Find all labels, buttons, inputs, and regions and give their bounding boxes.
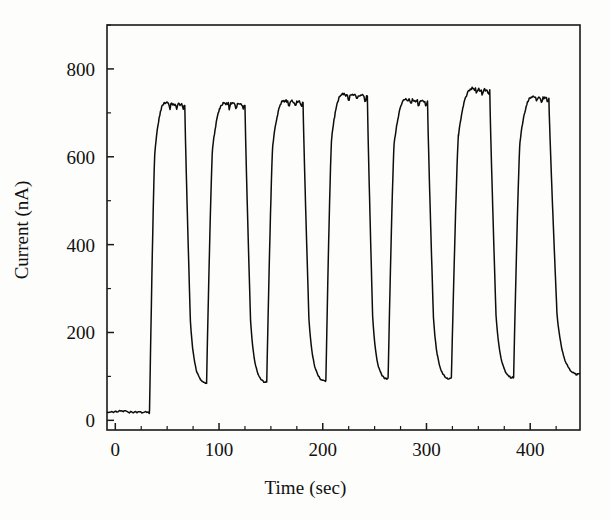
chart-plot-area: 0100200300400 0200400600800 [0,0,611,520]
y-axis-ticks [107,25,114,420]
x-axis-label: Time (sec) [0,477,611,499]
data-trace [107,87,580,413]
svg-text:800: 800 [67,59,96,80]
svg-text:600: 600 [67,147,96,168]
y-axis-tick-labels: 0200400600800 [67,59,96,431]
y-axis-label: Current (nA) [11,181,33,280]
svg-text:0: 0 [86,410,96,431]
x-axis-tick-labels: 0100200300400 [111,439,545,460]
svg-text:400: 400 [67,235,96,256]
svg-text:200: 200 [309,439,338,460]
svg-text:0: 0 [111,439,121,460]
y-axis-label-container: Current (nA) [0,0,44,460]
plot-frame [107,25,580,430]
svg-text:100: 100 [205,439,234,460]
figure-container: 0100200300400 0200400600800 Current (nA)… [0,0,611,520]
svg-text:300: 300 [412,439,441,460]
x-axis-ticks [115,423,556,430]
svg-text:200: 200 [67,322,96,343]
svg-text:400: 400 [516,439,545,460]
